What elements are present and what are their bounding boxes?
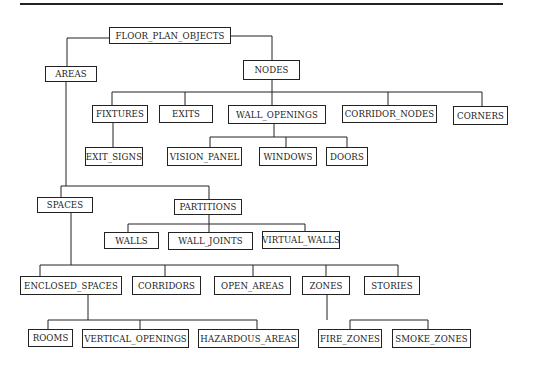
node-label: CORNERS [457, 111, 504, 121]
node-label: STORIES [371, 281, 412, 291]
node-corridor-nodes: CORRIDOR_NODES [342, 105, 437, 123]
node-smoke-zones: SMOKE_ZONES [392, 329, 471, 348]
node-label: CORRIDOR_NODES [345, 109, 435, 119]
node-label: PARTITIONS [179, 202, 236, 212]
node-label: ZONES [309, 281, 342, 291]
node-virtual-walls: VIRTUAL_WALLS [262, 231, 340, 249]
node-floor-plan-objects: FLOOR_PLAN_OBJECTS [109, 27, 231, 44]
node-label: ROOMS [33, 333, 69, 343]
node-label: HAZARDOUS_AREAS [200, 334, 296, 344]
node-windows: WINDOWS [259, 147, 317, 166]
node-vertical-openings: VERTICAL_OPENINGS [82, 329, 189, 348]
node-exits: EXITS [159, 105, 213, 123]
node-label: EXIT_SIGNS [86, 152, 142, 162]
node-corners: CORNERS [453, 106, 508, 125]
node-label: OPEN_AREAS [221, 281, 284, 291]
node-label: WALL_JOINTS [178, 236, 242, 246]
node-label: SPACES [47, 200, 83, 210]
node-label: WINDOWS [263, 152, 312, 162]
node-label: ENCLOSED_SPACES [24, 281, 118, 291]
node-wall-joints: WALL_JOINTS [168, 232, 253, 250]
node-label: FLOOR_PLAN_OBJECTS [115, 31, 224, 41]
node-fire-zones: FIRE_ZONES [318, 329, 382, 348]
hierarchy-diagram: FLOOR_PLAN_OBJECTSAREASNODESFIXTURESEXIT… [0, 0, 533, 371]
node-rooms: ROOMS [28, 329, 73, 347]
node-label: FIXTURES [96, 109, 144, 119]
node-vision-panel: VISION_PANEL [167, 147, 242, 166]
node-label: FIRE_ZONES [320, 334, 380, 344]
node-corridors: CORRIDORS [132, 276, 201, 295]
node-enclosed-spaces: ENCLOSED_SPACES [20, 276, 122, 295]
node-wall-openings: WALL_OPENINGS [228, 105, 326, 124]
node-doors: DOORS [326, 147, 368, 166]
connector-lines [0, 0, 533, 371]
node-label: EXITS [172, 109, 200, 119]
node-label: SMOKE_ZONES [395, 334, 468, 344]
node-label: CORRIDORS [138, 281, 195, 291]
node-label: AREAS [55, 69, 87, 79]
node-spaces: SPACES [37, 197, 93, 213]
node-nodes: NODES [243, 60, 300, 80]
node-stories: STORIES [364, 276, 420, 295]
node-label: DOORS [330, 152, 364, 162]
node-label: WALL_OPENINGS [236, 110, 318, 120]
connector-line [231, 36, 272, 60]
node-walls: WALLS [104, 232, 159, 249]
connector-line [67, 38, 109, 66]
node-areas: AREAS [45, 66, 97, 82]
node-exit-signs: EXIT_SIGNS [85, 147, 143, 166]
node-hazardous-areas: HAZARDOUS_AREAS [198, 329, 299, 348]
node-label: NODES [254, 65, 288, 75]
node-label: VIRTUAL_WALLS [262, 235, 340, 245]
node-partitions: PARTITIONS [174, 199, 242, 215]
node-label: WALLS [115, 236, 147, 246]
node-zones: ZONES [302, 276, 350, 295]
node-label: VERTICAL_OPENINGS [84, 334, 187, 344]
node-label: VISION_PANEL [170, 152, 240, 162]
node-open-areas: OPEN_AREAS [214, 276, 291, 295]
node-fixtures: FIXTURES [92, 105, 148, 123]
